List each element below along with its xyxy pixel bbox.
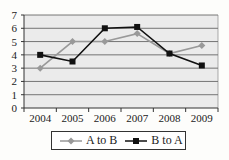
y-axis-ticks: 01234567 [12,9,25,114]
svg-text:2008: 2008 [159,112,182,124]
legend-label-a-to-b: A to B [86,133,117,148]
svg-text:2009: 2009 [191,112,214,124]
svg-text:2006: 2006 [94,112,117,124]
svg-text:6: 6 [12,22,18,34]
gray-diamond-marker-icon [60,136,82,146]
svg-text:1: 1 [12,89,18,101]
svg-text:2005: 2005 [62,112,85,124]
svg-text:3: 3 [12,62,18,74]
legend-label-b-to-a: B to A [151,133,182,148]
svg-text:5: 5 [12,36,18,48]
legend-item-b-to-a: B to A [125,133,182,148]
black-square-marker-icon [125,136,147,146]
svg-text:2007: 2007 [126,112,149,124]
legend: A to B B to A [51,131,186,150]
svg-text:0: 0 [12,102,18,114]
legend-item-a-to-b: A to B [60,133,117,148]
svg-text:7: 7 [12,9,18,21]
svg-text:2004: 2004 [29,112,52,124]
x-axis-ticks: 200420052006200720082009 [24,108,218,124]
svg-text:4: 4 [12,49,18,61]
svg-text:2: 2 [12,75,18,87]
